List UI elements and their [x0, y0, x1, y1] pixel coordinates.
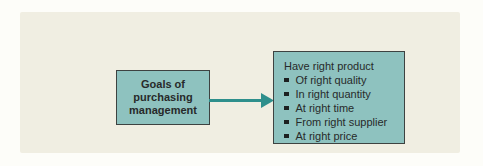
bullet-text: At right time [296, 101, 355, 115]
square-bullet-icon [284, 78, 289, 83]
right-product-box: Have right product Of right quality In r… [273, 51, 405, 144]
goals-box-line-3: management [129, 104, 197, 117]
list-item: From right supplier [284, 115, 398, 129]
bullet-text: At right price [296, 129, 358, 143]
bullet-text: In right quantity [296, 87, 371, 101]
right-arrow-icon [209, 91, 275, 110]
square-bullet-icon [284, 120, 289, 125]
list-item: Of right quality [284, 73, 398, 87]
bullet-text: From right supplier [296, 115, 388, 129]
list-item: At right time [284, 101, 398, 115]
list-item: At right price [284, 129, 398, 143]
goals-box: Goals of purchasing management [116, 70, 210, 125]
figure: Goals of purchasing management Have righ… [0, 0, 483, 166]
right-product-title: Have right product [284, 59, 398, 73]
diagram-panel: Goals of purchasing management Have righ… [20, 12, 460, 153]
square-bullet-icon [284, 92, 289, 97]
square-bullet-icon [284, 106, 289, 111]
goals-box-line-1: Goals of [141, 78, 185, 91]
square-bullet-icon [284, 134, 289, 139]
right-product-bullet-list: Of right quality In right quantity At ri… [284, 73, 398, 143]
list-item: In right quantity [284, 87, 398, 101]
bullet-text: Of right quality [296, 73, 367, 87]
goals-box-line-2: purchasing [133, 91, 192, 104]
